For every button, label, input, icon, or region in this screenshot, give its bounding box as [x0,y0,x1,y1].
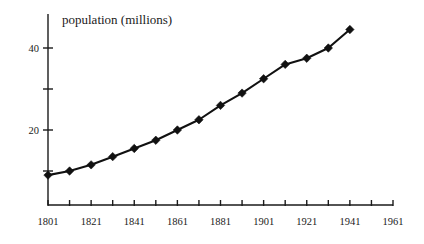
x-axis-tick-label: 1841 [124,216,145,227]
data-point-marker [152,136,160,144]
y-axis-tick-label: 20 [29,125,40,136]
x-axis-tick-label: 1801 [38,216,59,227]
y-axis-tick-label: 40 [29,43,40,54]
x-axis-tick-label: 1861 [167,216,188,227]
x-axis-tick-label: 1961 [383,216,404,227]
x-axis-tick-label: 1901 [253,216,274,227]
population-line-chart: 2040180118211841186118811901192119411961… [0,0,424,244]
data-point-marker [87,161,95,169]
chart-plot-area: 2040180118211841186118811901192119411961… [0,0,424,244]
x-axis-tick-label: 1941 [339,216,360,227]
data-point-marker [44,171,52,179]
data-point-marker [108,152,116,160]
data-point-marker [303,54,311,62]
x-axis-tick-label: 1821 [81,216,102,227]
data-point-marker [130,144,138,152]
population-series-line [48,30,350,176]
chart-title: population (millions) [62,12,172,27]
x-axis-tick-label: 1881 [210,216,231,227]
x-axis-tick-label: 1921 [296,216,317,227]
data-point-marker [173,126,181,134]
data-point-marker [65,167,73,175]
